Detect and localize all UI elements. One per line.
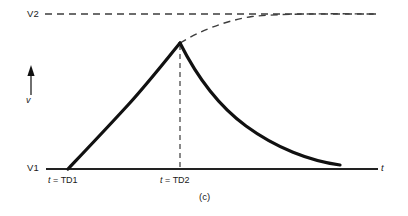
rising-exponential-curve (68, 43, 180, 169)
t-axis-label: t (381, 163, 384, 173)
figure-caption: (c) (199, 192, 210, 202)
v-axis-arrow-icon (27, 65, 34, 95)
td1-marker-label: t = TD1 (48, 176, 78, 185)
decaying-exponential-curve (180, 43, 340, 165)
charge-continuation-dashed-curve (180, 14, 378, 43)
td1-marker-value: = TD1 (53, 175, 78, 185)
v1-level-label: V1 (27, 163, 39, 173)
td2-marker-label: t = TD2 (160, 176, 190, 185)
td2-marker-value: = TD2 (165, 175, 190, 185)
v2-level-label: V2 (27, 9, 39, 19)
v-axis-label: v (26, 96, 31, 105)
